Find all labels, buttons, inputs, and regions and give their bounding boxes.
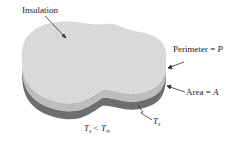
area-label: Area = A: [186, 88, 219, 97]
area-var: A: [213, 87, 219, 97]
perimeter-label: Perimeter = P: [173, 45, 223, 54]
surface-temp-label: Ts: [153, 117, 160, 127]
condition-sub2: ∞: [106, 128, 110, 134]
perimeter-var: P: [218, 44, 224, 54]
condition-op: <: [91, 123, 101, 133]
surface-temp-sub: s: [158, 121, 160, 127]
condition-label: Ts < T∞: [84, 124, 110, 134]
perimeter-prefix: Perimeter =: [173, 44, 218, 54]
insulation-top: [22, 22, 166, 104]
area-prefix: Area =: [186, 87, 213, 97]
insulation-label: Insulation: [22, 6, 58, 15]
fin-slab-diagram: [0, 0, 245, 144]
